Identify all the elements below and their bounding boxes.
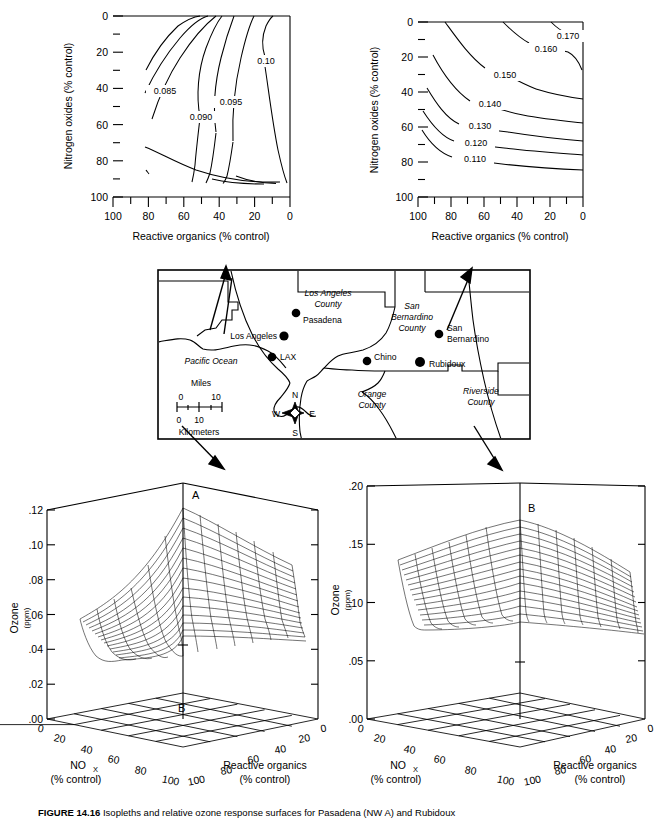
contour-label: 0.130 — [469, 121, 492, 131]
county-labels: Los Angeles County San Bernardino County… — [184, 288, 499, 410]
x-tick-label: 20 — [544, 210, 556, 222]
city-label-rubidoux: Rubidoux — [429, 359, 466, 369]
contour-label: 0.150 — [494, 70, 517, 80]
contour-label: 0.090 — [190, 112, 213, 122]
city-dot-lax — [268, 353, 277, 362]
arrow-head-to-topleft — [221, 266, 231, 280]
x-tick-label: 0 — [580, 210, 586, 222]
city-dot-sanbernardino — [435, 330, 444, 339]
x-axis-title: Reactive organics (% control) — [132, 230, 269, 242]
rog-tick-label: 0 — [319, 722, 327, 735]
z-axis-ticks-right — [638, 486, 645, 661]
contour-label: 0.140 — [479, 99, 502, 109]
nox-tick-label: 0 — [357, 722, 365, 735]
rog-tick-label: 40 — [273, 742, 287, 756]
z-axis-units: (ppm) — [343, 589, 352, 610]
nox-tick-label: 20 — [53, 731, 67, 745]
county-line-la-orange — [307, 368, 324, 381]
z-axis-title: Ozone — [8, 602, 20, 633]
nox-tick-label: 80 — [464, 763, 478, 777]
y-axis-ticks — [418, 22, 428, 197]
map-svg: Los Angeles County San Bernardino County… — [0, 250, 655, 470]
x-tick-label: 20 — [249, 210, 261, 222]
rog-axis-title: Reactive organics — [223, 759, 306, 771]
z-tick-label: .05 — [348, 655, 363, 667]
floor-grid — [0, 693, 318, 747]
panel-surface-rubidoux: .20 .15 .10 .05 .00 Ozone (ppm) — [330, 470, 655, 815]
contour-path — [145, 147, 280, 182]
contour-label: 0.170 — [557, 31, 580, 41]
y-tick-labels: 0 20 40 60 80 100 — [395, 16, 413, 203]
x-tick-labels: 100 80 60 40 20 0 — [409, 210, 586, 222]
x-axis-title: Reactive organics (% control) — [431, 230, 568, 242]
nox-tick-label: 60 — [433, 752, 447, 766]
contour-path — [504, 148, 583, 155]
county-label-la-line2: County — [314, 299, 342, 309]
county-label-la-line1: Los Angeles — [305, 288, 353, 298]
map-panel: Los Angeles County San Bernardino County… — [0, 250, 655, 470]
city-label-lax: LAX — [280, 352, 297, 362]
nox-tick-label: 80 — [134, 763, 148, 777]
contour-path — [146, 16, 200, 70]
contour-path — [422, 130, 452, 157]
x-tick-label: 0 — [287, 210, 293, 222]
y-tick-label: 60 — [401, 121, 413, 133]
contour-path — [146, 170, 149, 174]
x-axis-ticks — [113, 197, 290, 207]
contour-label: 0.085 — [154, 86, 177, 96]
scale-miles-max: 10 — [211, 392, 221, 402]
y-tick-label: 40 — [96, 82, 108, 94]
compass-south-label: S — [292, 428, 298, 438]
nox-axis-units: (% control) — [51, 773, 102, 785]
x-axis-ticks — [418, 197, 583, 207]
contour-label: 0.160 — [535, 44, 558, 54]
nox-tick-label: 20 — [373, 731, 387, 745]
isopleth-rubidoux-svg: 0 20 40 60 80 100 100 80 60 40 20 0 Reac… — [330, 0, 655, 250]
z-tick-label: .12 — [28, 504, 43, 516]
surface-mesh — [80, 508, 306, 661]
contour-path — [152, 16, 216, 119]
rog-tick-label: 40 — [603, 742, 617, 756]
figure-caption: FIGURE 14.16 Isopleths and relative ozon… — [38, 806, 618, 819]
county-label-orange-line2: County — [358, 400, 386, 410]
contour-path — [427, 88, 459, 124]
nox-tick-label: 100 — [161, 773, 181, 788]
contour-label: 0.10 — [257, 56, 275, 66]
county-label-riverside-line2: County — [467, 397, 495, 407]
y-axis-ticks — [113, 16, 123, 197]
z-tick-label: .20 — [348, 480, 363, 492]
county-line-riverside-notch — [498, 371, 530, 395]
z-axis-ticks-right — [311, 510, 318, 684]
panel-isopleth-rubidoux: 0 20 40 60 80 100 100 80 60 40 20 0 Reac… — [330, 0, 655, 250]
county-line-orange-north — [324, 368, 385, 371]
nox-axis-title: NO — [70, 759, 86, 771]
contour-path — [192, 118, 200, 182]
y-axis-title: Nitrogen oxides (% control) — [368, 47, 380, 174]
nox-tick-label: 100 — [496, 773, 516, 788]
z-tick-label: .10 — [28, 539, 43, 551]
city-label-sanbernardino-l2: Bernardino — [447, 334, 489, 344]
city-label-sanbernardino-l1: San — [447, 323, 463, 333]
figure-caption-text: Isopleths and relative ozone response su… — [103, 807, 455, 818]
contour-path — [502, 164, 583, 170]
scale-miles-min: 0 — [179, 392, 184, 402]
compass-north-label: N — [292, 390, 298, 400]
map-scale-bar: Miles 0 10 0 10 Kilometers — [177, 378, 222, 437]
contour-label: 0.095 — [220, 97, 243, 107]
peak-label-b: B — [528, 502, 535, 514]
city-dot-rubidoux — [415, 357, 425, 367]
contour-path — [508, 132, 583, 141]
county-label-sb-line3: County — [398, 323, 426, 333]
y-tick-label: 80 — [401, 156, 413, 168]
z-tick-label: .04 — [28, 643, 43, 655]
compass-west-label: W — [272, 409, 281, 419]
x-tick-labels: 100 80 60 40 20 0 — [104, 210, 293, 222]
county-line-orange-west — [299, 381, 307, 440]
x-tick-label: 40 — [511, 210, 523, 222]
city-label-chino: Chino — [374, 352, 397, 362]
floor-label-b: B — [178, 702, 185, 714]
contour-labels: 0.085 0.090 0.095 0.10 — [146, 55, 281, 123]
scale-miles-title: Miles — [191, 378, 211, 388]
peak-label-a: A — [192, 489, 200, 501]
z-axis-ticks — [47, 510, 55, 719]
